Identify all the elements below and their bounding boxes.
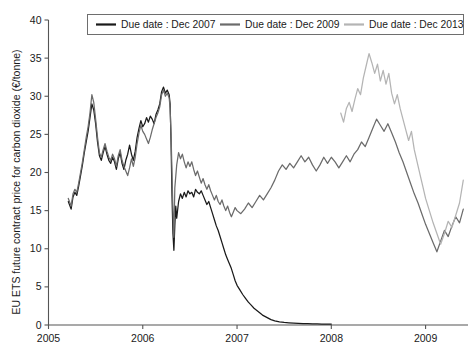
x-tick-label: 2008 [320,332,344,344]
series-line-2 [341,54,464,245]
legend: Due date : Dec 2007Due date : Dec 2009Du… [88,15,464,35]
series-lines [68,54,463,325]
legend-label-0: Due date : Dec 2007 [121,19,216,30]
series-line-1 [68,90,463,252]
x-axis-ticks: 20052006200720082009 [37,325,438,344]
y-tick-label: 15 [30,204,42,216]
y-tick-label: 10 [30,242,42,254]
y-tick-label: 30 [30,90,42,102]
x-tick-label: 2006 [131,332,155,344]
legend-label-2: Due date : Dec 2013 [369,19,464,30]
x-tick-label: 2005 [37,332,61,344]
y-tick-label: 5 [36,280,42,292]
x-tick-label: 2007 [225,332,249,344]
y-tick-label: 25 [30,128,42,140]
y-tick-label: 0 [36,319,42,331]
x-tick-label: 2009 [414,332,438,344]
y-tick-label: 35 [30,52,42,64]
series-line-0 [68,87,331,324]
y-tick-label: 40 [30,14,42,26]
y-axis-ticks: 0510152025303540 [30,14,49,331]
axes [49,20,469,325]
y-axis-label-text: EU ETS future contract price for carbon … [10,50,22,315]
legend-label-1: Due date : Dec 2009 [245,19,340,30]
y-axis-label: EU ETS future contract price for carbon … [10,50,22,315]
y-tick-label: 20 [30,166,42,178]
chart-container: EU ETS future contract price for carbon … [0,0,471,356]
eu-ets-price-line-chart: EU ETS future contract price for carbon … [0,0,471,356]
